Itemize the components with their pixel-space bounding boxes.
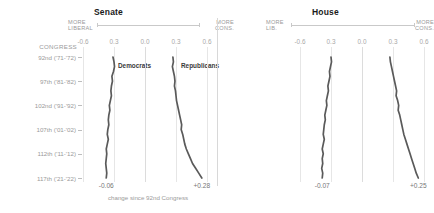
series-lines [217, 0, 434, 213]
panel-house: House MORE LIB. MORE CONS. -0.60.30.00.3… [217, 0, 434, 213]
line-republicans [172, 57, 201, 178]
line-democrats [106, 57, 115, 178]
polarization-chart: Senate MORE LIBERAL MORE CONS. CONGRESS … [0, 0, 434, 213]
panel-senate: Senate MORE LIBERAL MORE CONS. CONGRESS … [0, 0, 217, 213]
series-lines [0, 0, 217, 213]
line-democrats [322, 57, 332, 178]
line-republicans [390, 57, 418, 178]
